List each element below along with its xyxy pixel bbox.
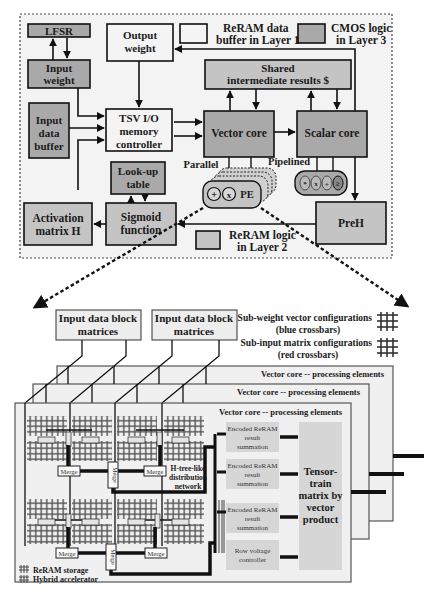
merge-label: Merge <box>147 468 164 475</box>
input-block-2-line2: matrices <box>174 325 215 337</box>
row-voltage-line1: Row voltage <box>235 547 271 555</box>
legend-reram-buffer-line2: buffer in Layer 1 <box>216 34 300 47</box>
sub-weight-line2: (blue crossbars) <box>276 325 340 336</box>
merge-label: Merge <box>59 550 76 557</box>
scalar-op-1: * <box>303 180 307 188</box>
pe-op-add: + <box>211 189 217 200</box>
scalar-op-4: ≥ <box>336 180 340 188</box>
legend-cmos-swatch <box>298 24 325 43</box>
scalar-ops: * x ÷ ≥ <box>295 171 347 195</box>
legend-reram-buffer-swatch <box>180 24 207 43</box>
pe-op-mult: x <box>227 190 232 200</box>
legend-reram-logic-swatch <box>196 231 220 249</box>
sub-input-line1: Sub-input matrix configurations <box>241 338 373 348</box>
layer-front-label: Vector core -- processing elements <box>219 407 343 417</box>
merge-label: Merge <box>148 550 165 557</box>
input-block-1-line2: matrices <box>78 325 119 337</box>
sum1-line2: result <box>245 434 261 442</box>
sum2-line2: result <box>245 471 261 479</box>
ttm-line4: vector <box>307 502 335 513</box>
shared-line2: intermediate results $ <box>227 74 329 86</box>
activation-line2: matrix H <box>35 225 80 237</box>
scalar-op-3: ÷ <box>325 180 329 188</box>
ttm-line5: product <box>303 514 339 525</box>
row-voltage-line2: controller <box>239 556 267 564</box>
sigmoid-line2: function <box>121 224 163 236</box>
vector-core-label: Vector core <box>211 127 267 139</box>
lfsr-label: LFSR <box>45 25 74 37</box>
sum2-line1: Encoded ReRAM <box>228 462 279 470</box>
layer-mid-label: Vector core -- processing elements <box>237 387 361 397</box>
layer-back-label: Vector core -- processing elements <box>261 369 385 379</box>
output-weight-line2: weight <box>124 42 156 54</box>
htree-line2: distribution <box>169 473 208 482</box>
output-weight-line1: Output <box>123 29 158 41</box>
merge-label-vertical: Merge <box>112 467 118 483</box>
input-weight-line2: weight <box>43 74 75 86</box>
input-data-buffer-line2: data <box>39 127 60 139</box>
input-data-buffer-line1: Input <box>36 114 63 126</box>
figure-root: ReRAM data buffer in Layer 1 CMOS logic … <box>0 0 438 595</box>
lookup-line2: table <box>126 178 149 190</box>
sigmoid-line1: Sigmoid <box>121 211 162 224</box>
htree-line3: network <box>175 482 202 491</box>
sub-weight-line1: Sub-weight vector configurations <box>238 313 373 323</box>
hybrid-accelerator-icon <box>19 575 29 583</box>
activation-line1: Activation <box>32 212 84 224</box>
tsv-line2: memory <box>119 125 159 137</box>
sum1-line1: Encoded ReRAM <box>228 425 279 433</box>
sum3-line2: result <box>245 515 261 523</box>
sub-input-line2: (red crossbars) <box>278 350 339 361</box>
input-weight-line1: Input <box>46 62 73 74</box>
ttm-line3: matrix by <box>298 490 343 501</box>
scalar-core-label: Scalar core <box>305 127 360 139</box>
parallel-label: Parallel <box>184 159 219 170</box>
merge-label: Merge <box>61 468 78 475</box>
preh-label: PreH <box>338 217 364 229</box>
legend-cmos-line2: in Layer 3 <box>336 34 387 47</box>
tsv-line1: TSV I/O <box>119 112 159 124</box>
ttm-line1: Tensor- <box>304 466 338 477</box>
shared-line1: Shared <box>261 62 294 74</box>
pipelined-label: Pipelined <box>268 156 310 167</box>
sum1-line3: summation <box>237 443 269 451</box>
sum2-line3: summation <box>237 480 269 488</box>
hybrid-accelerator-label: Hybrid accelerator <box>33 575 99 584</box>
sum3-line3: summation <box>237 524 269 532</box>
tsv-line3: controller <box>116 138 162 150</box>
activation-matrix-block <box>24 203 92 245</box>
lookup-line1: Look-up <box>118 165 158 177</box>
ttm-line2: train <box>309 478 331 489</box>
scalar-op-2: x <box>314 180 318 188</box>
input-data-buffer-line3: buffer <box>34 140 63 152</box>
sum3-line1: Encoded ReRAM <box>228 506 279 514</box>
reram-storage-icon <box>19 565 29 573</box>
reram-storage-label: ReRAM storage <box>33 566 89 575</box>
input-block-1-line1: Input data block <box>59 312 138 324</box>
merge-label-vertical: Merge <box>110 549 116 565</box>
htree-line1: H-tree-like <box>171 464 207 473</box>
legend-reram-logic-line2: in Layer 2 <box>237 241 288 254</box>
pe-label: PE <box>240 189 253 200</box>
legend-reram-buffer-line1: ReRAM data <box>223 22 289 34</box>
input-block-2-line1: Input data block <box>155 312 234 324</box>
